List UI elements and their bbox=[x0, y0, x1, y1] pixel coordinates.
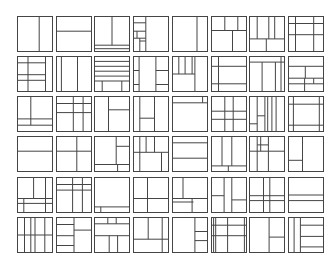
panel-r2-c2 bbox=[56, 56, 92, 92]
panel-r5-c4 bbox=[133, 177, 169, 213]
panel-r4-c2 bbox=[56, 136, 92, 172]
panel-r2-c6 bbox=[211, 56, 247, 92]
panel-r1-c4 bbox=[133, 16, 169, 52]
panel-r5-c8 bbox=[288, 177, 324, 213]
panel-r3-c7 bbox=[249, 96, 285, 132]
panel-r5-c6 bbox=[211, 177, 247, 213]
panel-r1-c2 bbox=[56, 16, 92, 52]
panel-r5-c2 bbox=[56, 177, 92, 213]
panel-r2-c8 bbox=[288, 56, 324, 92]
panel-r2-c1 bbox=[17, 56, 53, 92]
panel-r6-c4 bbox=[133, 217, 169, 253]
panel-r3-c5 bbox=[172, 96, 208, 132]
panel-r4-c3 bbox=[94, 136, 130, 172]
panel-r2-c3 bbox=[94, 56, 130, 92]
panel-r6-c1 bbox=[17, 217, 53, 253]
panel-r6-c6 bbox=[211, 217, 247, 253]
panel-r3-c1 bbox=[17, 96, 53, 132]
panel-r4-c1 bbox=[17, 136, 53, 172]
panel-r6-c8 bbox=[288, 217, 324, 253]
panel-r4-c7 bbox=[249, 136, 285, 172]
panel-r2-c7 bbox=[249, 56, 285, 92]
panel-r2-c5 bbox=[172, 56, 208, 92]
panel-r6-c5 bbox=[172, 217, 208, 253]
panel-r4-c4 bbox=[133, 136, 169, 172]
panel-r4-c6 bbox=[211, 136, 247, 172]
subdivision-grid bbox=[0, 0, 336, 271]
panel-r3-c2 bbox=[56, 96, 92, 132]
panel-r6-c2 bbox=[56, 217, 92, 253]
panel-r3-c4 bbox=[133, 96, 169, 132]
panel-r5-c1 bbox=[17, 177, 53, 213]
panel-r1-c8 bbox=[288, 16, 324, 52]
panel-r1-c1 bbox=[17, 16, 53, 52]
panel-r5-c5 bbox=[172, 177, 208, 213]
panel-r6-c7 bbox=[249, 217, 285, 253]
panel-r3-c6 bbox=[211, 96, 247, 132]
panel-r5-c3 bbox=[94, 177, 130, 213]
panel-r1-c7 bbox=[249, 16, 285, 52]
panel-r6-c3 bbox=[94, 217, 130, 253]
panel-r5-c7 bbox=[249, 177, 285, 213]
panel-r2-c4 bbox=[133, 56, 169, 92]
panel-r3-c3 bbox=[94, 96, 130, 132]
panel-r1-c3 bbox=[94, 16, 130, 52]
panel-r1-c5 bbox=[172, 16, 208, 52]
panel-r4-c8 bbox=[288, 136, 324, 172]
panel-r3-c8 bbox=[288, 96, 324, 132]
panel-r4-c5 bbox=[172, 136, 208, 172]
panel-r1-c6 bbox=[211, 16, 247, 52]
